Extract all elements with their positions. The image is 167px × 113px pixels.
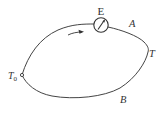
wire-b: [22, 52, 148, 98]
label-t0-sub: 0: [14, 75, 18, 83]
junction-t0: [20, 73, 23, 76]
wire-a: [108, 27, 148, 52]
meter-label: E: [98, 5, 105, 17]
label-t0: T0: [8, 70, 18, 83]
galvanometer: [94, 18, 108, 32]
thermocouple-diagram: E A T B T0: [0, 0, 167, 113]
label-a: A: [128, 18, 136, 29]
direction-arrow-icon: [68, 30, 84, 35]
label-b: B: [120, 94, 127, 105]
label-t: T: [149, 48, 156, 59]
